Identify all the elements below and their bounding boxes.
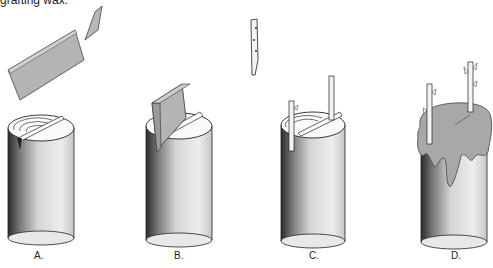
grafting-diagram	[0, 0, 493, 268]
cleft-knife-icon	[8, 6, 102, 100]
stock-cylinder-a	[8, 115, 74, 245]
panel-label-b: B.	[174, 250, 183, 261]
panel-a	[8, 6, 102, 245]
panel-c	[251, 19, 345, 248]
scion-detached-icon	[251, 19, 258, 75]
panel-label-c: C.	[309, 250, 319, 261]
panel-label-a: A.	[34, 250, 43, 261]
panel-b	[146, 84, 212, 247]
panel-d	[417, 62, 491, 249]
panel-label-d: D.	[451, 250, 461, 261]
scion-inserted-right-icon	[329, 76, 334, 120]
